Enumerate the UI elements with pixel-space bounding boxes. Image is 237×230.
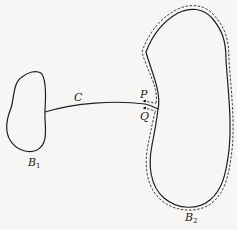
body-b2-boundary (146, 9, 230, 207)
body-b1-boundary (7, 72, 46, 152)
label-b2-main: B (184, 211, 193, 224)
label-b2: B2 (184, 211, 198, 225)
label-b1-main: B (27, 156, 36, 169)
label-q: Q (140, 110, 149, 123)
point-q-marker (144, 107, 146, 109)
label-c: C (74, 91, 83, 104)
label-p: P (139, 88, 148, 101)
label-b1-sub: 1 (36, 162, 40, 170)
label-b1: B1 (27, 156, 41, 170)
label-b2-sub: 2 (193, 217, 197, 225)
topology-diagram: C P Q B1 B2 (0, 0, 237, 230)
